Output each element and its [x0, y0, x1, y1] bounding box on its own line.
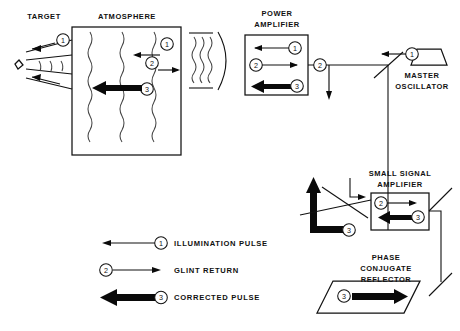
marker-3-atmosphere: 3 [141, 83, 154, 96]
label-power-amplifier-line1: POWER [261, 9, 292, 18]
legend-row-illumination-pulse: 1 ILLUMINATION PULSE [102, 237, 268, 250]
svg-text:1: 1 [61, 36, 65, 45]
label-target: TARGET [27, 12, 61, 21]
marker-3-corrected-return: 3 [343, 224, 356, 237]
label-master-oscillator-line2: OSCILLATOR [395, 82, 449, 91]
label-phase-conjugate-reflector-line2: CONJUGATE [360, 264, 411, 273]
label-small-signal-amplifier-line1: SMALL SIGNAL [369, 169, 432, 178]
label-phase-conjugate-reflector-line1: PHASE [372, 253, 401, 262]
svg-text:3: 3 [145, 85, 149, 94]
marker-3-small-signal-amplifier: 3 [412, 211, 425, 224]
pa-arrow-illumination [254, 45, 289, 51]
corrected-pulse-return-arrow [306, 177, 344, 233]
svg-text:2: 2 [104, 266, 108, 275]
marker-2-power-amplifier: 2 [250, 59, 263, 72]
label-phase-conjugate-reflector-line3: REFLECTOR [361, 275, 412, 284]
svg-text:3: 3 [295, 82, 299, 91]
marker-2-small-signal-amplifier: 2 [375, 197, 388, 210]
svg-text:2: 2 [150, 59, 154, 68]
svg-text:3: 3 [416, 213, 420, 222]
legend-row-glint-return: 2 GLINT RETURN [100, 264, 239, 277]
marker-3-phase-conjugate-reflector: 3 [338, 290, 351, 303]
label-atmosphere: ATMOSPHERE [98, 12, 156, 21]
label-power-amplifier-line2: AMPLIFIER [254, 20, 299, 29]
svg-text:1: 1 [159, 239, 163, 248]
label-small-signal-amplifier-line2: AMPLIFIER [377, 180, 422, 189]
target-glint-icon [15, 60, 23, 69]
svg-text:3: 3 [347, 226, 351, 235]
marker-2-atmosphere: 2 [146, 57, 159, 70]
marker-1-master-oscillator: 1 [406, 48, 419, 61]
path-ssa-to-pcr [429, 211, 441, 282]
svg-text:2: 2 [379, 199, 383, 208]
marker-2-glint-branch: 2 [314, 59, 327, 72]
arrow-glint-branch-down [326, 65, 332, 100]
output-coupler-mirror [218, 32, 226, 90]
label-master-oscillator-line1: MASTER [405, 71, 440, 80]
svg-text:2: 2 [318, 61, 322, 70]
svg-text:1: 1 [293, 44, 297, 53]
path-into-ssa [350, 178, 366, 200]
ssa-arrow-glint [387, 200, 417, 206]
atm-arrow-glint [158, 67, 180, 73]
atm-arrow-corrected [92, 81, 142, 95]
corrected-wavefront-waves [192, 37, 212, 83]
pa-arrow-glint [262, 62, 298, 68]
arrow-master-oscillator-out [381, 51, 406, 57]
svg-text:1: 1 [165, 40, 169, 49]
svg-text:2: 2 [254, 61, 258, 70]
legend-label-glint-return: GLINT RETURN [174, 266, 239, 275]
atm-arrow-illumination [133, 52, 160, 58]
beamsplitter-ssa-output [429, 188, 452, 211]
legend: 1 ILLUMINATION PULSE 2 GLINT RETURN 3 CO… [100, 237, 268, 306]
target-scatter-ticks [39, 61, 63, 71]
ssa-arrow-corrected [378, 211, 414, 224]
marker-3-power-amplifier: 3 [291, 80, 304, 93]
svg-text:3: 3 [159, 293, 163, 302]
beam-control-diagram: 1 1 2 3 1 2 3 1 2 [0, 0, 460, 331]
legend-row-corrected-pulse: 3 CORRECTED PULSE [100, 289, 260, 306]
legend-label-corrected-pulse: CORRECTED PULSE [174, 293, 260, 302]
marker-1-power-amplifier: 1 [289, 42, 302, 55]
legend-label-illumination-pulse: ILLUMINATION PULSE [174, 239, 268, 248]
marker-1-atmosphere: 1 [161, 38, 174, 51]
marker-1-target: 1 [57, 34, 70, 47]
pa-arrow-corrected [251, 80, 294, 93]
svg-text:1: 1 [410, 50, 414, 59]
svg-text:3: 3 [342, 292, 346, 301]
